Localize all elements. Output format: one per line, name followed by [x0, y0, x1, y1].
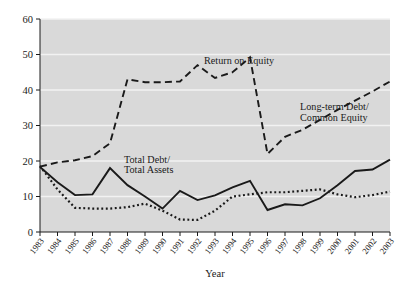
- x-tick-label: 1991: [167, 236, 186, 256]
- x-tick-label: 1984: [45, 236, 64, 256]
- x-tick-label: 1985: [62, 236, 81, 256]
- x-tick-label: 2001: [342, 236, 361, 256]
- chart-canvas: 0102030405060 19831984198519861987198819…: [0, 0, 412, 284]
- x-tick-label: 1996: [255, 236, 274, 256]
- x-tick-label: 1997: [272, 236, 291, 256]
- chart-figure: 0102030405060 19831984198519861987198819…: [0, 0, 412, 284]
- x-tick-label: 2003: [377, 236, 396, 256]
- y-tick-label: 30: [23, 120, 34, 131]
- x-tick-label: 1999: [307, 236, 326, 256]
- x-tick-label: 1983: [27, 236, 46, 256]
- x-axis-title: Year: [205, 268, 225, 279]
- x-tick-label: 1987: [97, 236, 116, 256]
- x-tick-label: 1994: [220, 236, 239, 256]
- x-tick-label: 1986: [80, 236, 99, 256]
- x-tick-label: 1995: [237, 236, 256, 256]
- x-tick-label: 1990: [150, 236, 169, 256]
- y-tick-label: 60: [23, 14, 34, 25]
- series-annotation-label: Common Equity: [300, 112, 369, 123]
- series-annotation-label: Return on Equity: [204, 55, 275, 66]
- x-tick-label: 1998: [290, 236, 309, 256]
- series-annotation-label: Total Assets: [124, 164, 173, 175]
- x-tick-label: 2000: [325, 236, 344, 256]
- y-tick-label: 10: [23, 191, 34, 202]
- x-tick-label: 1988: [115, 236, 134, 256]
- y-tick-group: 0102030405060: [23, 14, 41, 238]
- y-tick-label: 40: [23, 85, 34, 96]
- y-tick-label: 20: [23, 156, 34, 167]
- x-tick-label: 1992: [185, 236, 204, 256]
- x-tick-group: 1983198419851986198719881989199019911992…: [27, 232, 396, 256]
- series-annotation-label: Long-term Debt/: [300, 101, 369, 112]
- y-tick-label: 0: [28, 227, 33, 238]
- x-tick-label: 2002: [360, 236, 379, 256]
- x-tick-label: 1989: [132, 236, 151, 256]
- x-tick-label: 1993: [202, 236, 221, 256]
- y-tick-label: 50: [23, 49, 34, 60]
